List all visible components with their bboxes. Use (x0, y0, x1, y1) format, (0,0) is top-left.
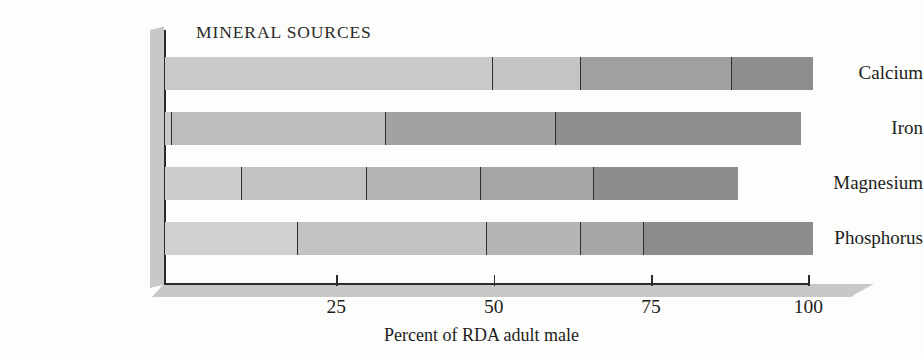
bar-segment (580, 57, 731, 90)
category-label-phosphorus: Phosphorus (775, 227, 923, 249)
bar-segment (492, 57, 580, 90)
x-axis-tick-label: 50 (484, 296, 504, 318)
category-label-calcium: Calcium (775, 62, 923, 84)
x-axis-shadow (152, 284, 864, 297)
bar-segment (165, 222, 297, 255)
bar-segment (165, 167, 241, 200)
x-axis-tick (808, 275, 810, 286)
x-axis-tick-label: 25 (327, 296, 347, 318)
x-axis-tick-label: 75 (641, 296, 661, 318)
bar-segment (593, 167, 738, 200)
y-axis-shadow (150, 27, 164, 288)
chart-title: MINERAL SOURCES (196, 22, 372, 43)
bar-magnesium (165, 167, 738, 200)
x-axis-tick (336, 275, 338, 286)
x-axis-line (164, 283, 809, 285)
category-label-iron: Iron (775, 117, 923, 139)
bar-segment (241, 167, 367, 200)
x-axis-caption: Percent of RDA adult male (0, 325, 923, 346)
category-label-magnesium: Magnesium (775, 172, 923, 194)
x-axis-tick-label: 100 (794, 296, 823, 318)
x-axis-tick (651, 275, 653, 286)
bar-calcium (165, 57, 813, 90)
x-axis-tick (494, 275, 496, 286)
bar-segment (555, 112, 800, 145)
bar-segment (385, 112, 555, 145)
bar-segment (297, 222, 486, 255)
bar-segment (171, 112, 385, 145)
mineral-sources-chart: MINERAL SOURCES CalciumIronMagnesiumPhos… (0, 0, 923, 359)
bar-segment (580, 222, 643, 255)
bar-phosphorus (165, 222, 813, 255)
bar-segment (366, 167, 479, 200)
bar-segment (486, 222, 580, 255)
bar-iron (165, 112, 801, 145)
bar-segment (480, 167, 593, 200)
bar-segment (165, 57, 492, 90)
